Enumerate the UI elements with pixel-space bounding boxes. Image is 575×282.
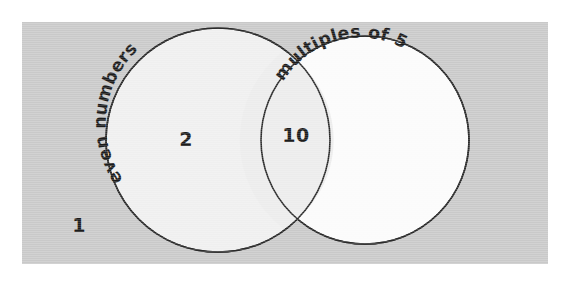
region-value-even-numbers-only: 2 <box>179 128 193 150</box>
venn-diagram: even numbers multiples of 5 1 2 10 <box>0 0 575 282</box>
region-value-intersection: 10 <box>282 124 309 146</box>
region-value-outside: 1 <box>72 214 86 236</box>
venn-diagram-stage: even numbers multiples of 5 1 2 10 <box>0 0 575 282</box>
